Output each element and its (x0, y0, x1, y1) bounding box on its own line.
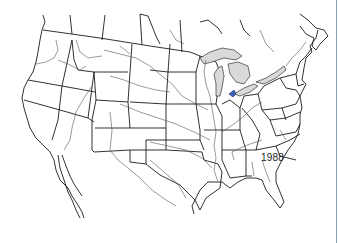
northern-coastline (140, 14, 250, 44)
lake-superior (200, 48, 242, 64)
lake-huron (228, 62, 250, 84)
missouri-river (104, 50, 208, 110)
frame-edge (336, 0, 337, 243)
platte-river (110, 76, 170, 92)
gulf-coastline (192, 182, 230, 214)
highlighted-region (229, 90, 236, 97)
st-lawrence-river (286, 42, 306, 66)
map-frame: 1988 (0, 0, 338, 243)
western-state-lines (24, 40, 196, 152)
canadian-rivers (76, 30, 274, 58)
baja-coastline (58, 155, 82, 218)
north-america-map (0, 0, 338, 243)
year-label: 1988 (261, 152, 284, 163)
lake-michigan (214, 66, 224, 96)
canada-us-border (43, 30, 200, 56)
snake-river (58, 60, 86, 70)
central-state-lines (130, 56, 222, 210)
canada-province-lines (70, 14, 182, 52)
